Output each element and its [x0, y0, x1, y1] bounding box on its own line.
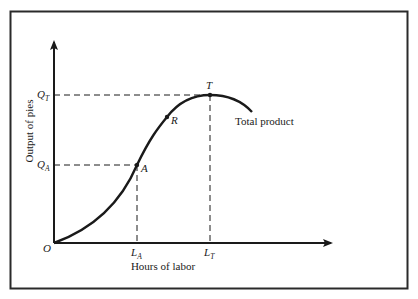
- point-r-label: R: [170, 114, 178, 126]
- y-tick-qt-base: Q: [37, 88, 45, 100]
- x-tick-la-base: L: [130, 246, 137, 258]
- origin-label: O: [43, 242, 51, 254]
- point-r-marker: [165, 115, 169, 119]
- y-tick-qt-sub: T: [45, 94, 50, 103]
- x-tick-lt: LT: [203, 246, 215, 261]
- y-tick-qa-sub: A: [44, 164, 50, 173]
- point-t-marker: [208, 93, 212, 97]
- point-t-label: T: [206, 79, 213, 91]
- x-tick-lt-sub: T: [210, 252, 215, 261]
- y-tick-qt: QT: [37, 88, 50, 103]
- total-product-curve: [54, 95, 252, 243]
- x-axis-title: Hours of labor: [131, 260, 195, 272]
- y-tick-qa: QA: [37, 158, 50, 173]
- curve-label: Total product: [235, 115, 294, 127]
- y-tick-qa-base: Q: [37, 158, 45, 170]
- point-a-label: A: [140, 162, 148, 174]
- x-tick-la: LA: [130, 246, 142, 261]
- y-axis-title: Output of pies: [23, 100, 35, 163]
- total-product-diagram: A R T Total product QT QA LA LT O Hours …: [0, 0, 418, 299]
- x-tick-lt-base: L: [203, 246, 210, 258]
- point-a-marker: [135, 163, 139, 167]
